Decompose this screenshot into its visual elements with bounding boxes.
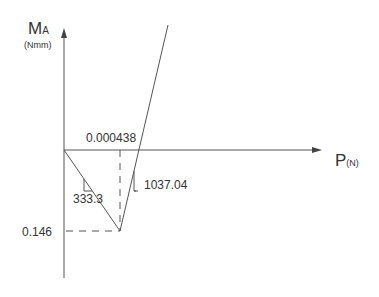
x-axis-arrow-icon (312, 147, 322, 153)
y-axis-unit: (Nmm) (24, 40, 52, 50)
min-value-label: 0.146 (22, 225, 52, 239)
slope-up-label: 1037.04 (144, 178, 187, 192)
x-intercept-label: 0.000438 (86, 131, 136, 145)
y-axis-arrow-icon (61, 28, 67, 38)
x-axis-label: P(N) (335, 151, 359, 171)
slope-down-label: 333.3 (73, 192, 103, 206)
slope-triangle-up (134, 171, 136, 191)
diagram-canvas (0, 0, 379, 297)
y-axis-label: MA (28, 19, 49, 39)
